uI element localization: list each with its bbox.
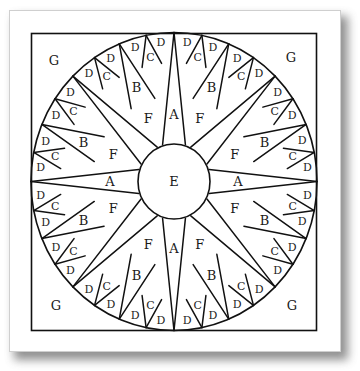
label-D: D — [85, 67, 94, 80]
label-D: D — [288, 241, 297, 254]
label-D: D — [36, 189, 45, 202]
corner-label-bottom-left: G — [51, 298, 61, 313]
label-C: C — [69, 245, 77, 258]
label-D: D — [41, 216, 50, 229]
label-D: D — [273, 264, 282, 277]
label-D: D — [209, 309, 218, 322]
label-D: D — [66, 86, 75, 99]
label-D: D — [233, 298, 242, 311]
label-C: C — [270, 245, 278, 258]
label-E: E — [169, 174, 179, 189]
label-D: D — [131, 41, 140, 54]
label-A: A — [232, 174, 243, 189]
label-D: D — [85, 283, 94, 296]
label-B: B — [132, 268, 142, 283]
label-C: C — [237, 70, 245, 83]
label-C: C — [146, 51, 154, 64]
label-D: D — [156, 36, 165, 49]
label-B: B — [79, 135, 89, 150]
corner-label-top-right: G — [286, 50, 296, 65]
label-D: D — [131, 309, 140, 322]
label-F: F — [195, 237, 204, 252]
compass-diagram: AAAAFFFFFFFFBBBBBBBBCCCCCCCCCCCCCCCCDDDD… — [0, 0, 360, 371]
label-B: B — [207, 268, 217, 283]
label-C: C — [270, 105, 278, 118]
label-D: D — [157, 314, 166, 327]
corner-label-bottom-right: G — [287, 298, 297, 313]
label-A: A — [168, 107, 179, 122]
label-C: C — [193, 299, 201, 312]
label-F: F — [230, 147, 239, 162]
label-C: C — [237, 280, 245, 293]
label-F: F — [144, 111, 153, 126]
label-F: F — [195, 111, 204, 126]
label-D: D — [233, 52, 242, 65]
label-B: B — [207, 80, 217, 95]
label-C: C — [51, 150, 59, 163]
label-D: D — [36, 161, 45, 174]
label-D: D — [106, 52, 115, 65]
label-C: C — [146, 299, 154, 312]
label-F: F — [109, 147, 118, 162]
label-D: D — [51, 109, 60, 122]
label-D: D — [303, 161, 312, 174]
label-D: D — [41, 135, 50, 148]
label-F: F — [144, 237, 153, 252]
label-D: D — [183, 314, 192, 327]
label-D: D — [298, 215, 307, 228]
label-D: D — [288, 109, 297, 122]
label-B: B — [260, 135, 270, 150]
label-D: D — [298, 134, 307, 147]
label-C: C — [103, 280, 111, 293]
label-B: B — [260, 213, 270, 228]
label-D: D — [183, 36, 192, 49]
label-F: F — [230, 201, 239, 216]
label-C: C — [51, 200, 59, 213]
label-B: B — [132, 80, 142, 95]
label-B: B — [79, 213, 89, 228]
corner-label-top-left: G — [49, 53, 59, 68]
label-C: C — [193, 51, 201, 64]
label-D: D — [273, 86, 282, 99]
label-A: A — [168, 241, 179, 256]
label-D: D — [255, 67, 264, 80]
label-D: D — [51, 241, 60, 254]
label-D: D — [303, 189, 312, 202]
label-C: C — [288, 150, 296, 163]
label-C: C — [288, 200, 296, 213]
label-C: C — [103, 70, 111, 83]
label-C: C — [69, 105, 77, 118]
label-D: D — [66, 264, 75, 277]
label-D: D — [208, 41, 217, 54]
label-A: A — [104, 174, 115, 189]
label-D: D — [255, 283, 264, 296]
label-F: F — [109, 201, 118, 216]
label-D: D — [106, 298, 115, 311]
